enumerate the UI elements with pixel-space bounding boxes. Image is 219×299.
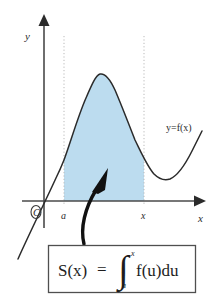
integral-lower-limit: a xyxy=(122,281,126,290)
y-axis-arrowhead xyxy=(39,14,50,26)
curve-label-y-equals-f-of-x: y=f(x) xyxy=(166,122,192,134)
y-axis-label: y xyxy=(24,30,30,42)
formula-left-hand-side: S(x) xyxy=(58,261,87,280)
x-axis-arrowhead xyxy=(194,196,206,207)
tick-label-x: x xyxy=(140,210,146,221)
integral-upper-limit: x xyxy=(130,249,135,258)
figure-container: y x a x y=f(x) S(x) = ∫ x a f(u)du O xyxy=(0,0,219,299)
page-ghost-header xyxy=(6,0,24,9)
x-axis-label: x xyxy=(197,212,203,224)
formula-equals-sign: = xyxy=(97,260,107,279)
formula-integrand: f(u)du xyxy=(136,261,179,280)
integral-area-diagram: y x a x y=f(x) S(x) = ∫ x a f(u)du xyxy=(0,0,219,299)
tick-label-a: a xyxy=(61,210,66,221)
